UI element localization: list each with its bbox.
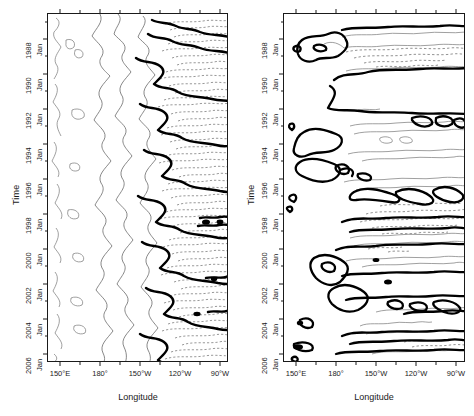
figure-container: Time <box>0 0 474 416</box>
left-panel-y-axis-label: Time <box>11 185 21 205</box>
left-y-tick-month-1998: Jan <box>35 219 44 231</box>
left-y-tick-month-1994: Jan <box>35 149 44 161</box>
right-y-tick-year-1998: 1998 <box>260 217 269 234</box>
right-y-tick-month-2004: Jan <box>271 324 280 336</box>
left-x-tick-150e: 150°E <box>38 369 82 378</box>
right-y-tick-month-1992: Jan <box>271 114 280 126</box>
left-y-tick-month-1990: Jan <box>35 79 44 91</box>
left-y-tick-year-2004: 2004 <box>24 322 33 339</box>
left-y-tick-year-1996: 1996 <box>24 182 33 199</box>
left-x-tick-90w: 90°W <box>198 369 242 378</box>
left-panel-x-axis-label: Longitude <box>88 392 188 402</box>
left-y-tick-month-2004: Jan <box>35 324 44 336</box>
right-y-tick-month-2002: Jan <box>271 289 280 301</box>
right-y-tick-month-1994: Jan <box>271 149 280 161</box>
right-x-tick-90w: 90°W <box>434 369 474 378</box>
left-x-tick-120w: 120°W <box>158 369 202 378</box>
left-y-tick-month-1988: Jan <box>35 44 44 56</box>
right-panel: Time <box>237 0 474 416</box>
left-panel-contour-plot <box>48 14 228 362</box>
left-y-tick-year-1998: 1998 <box>24 217 33 234</box>
right-y-tick-month-2000: Jan <box>271 254 280 266</box>
right-y-tick-year-1996: 1996 <box>260 182 269 199</box>
left-y-tick-month-1992: Jan <box>35 114 44 126</box>
right-x-tick-120w: 120°W <box>394 369 438 378</box>
left-y-tick-year-2000: 2000 <box>24 252 33 269</box>
right-y-tick-month-1988: Jan <box>271 44 280 56</box>
left-y-tick-year-1990: 1990 <box>24 77 33 94</box>
left-panel: Time <box>0 0 237 416</box>
right-y-tick-year-1988: 1988 <box>260 42 269 59</box>
left-y-tick-month-2000: Jan <box>35 254 44 266</box>
left-panel-plot-area <box>47 13 228 362</box>
right-y-tick-year-2004: 2004 <box>260 322 269 339</box>
right-y-tick-year-2006: 2006 <box>260 357 269 374</box>
left-y-tick-month-1996: Jan <box>35 184 44 196</box>
right-panel-contour-plot <box>284 14 465 362</box>
left-y-tick-year-1992: 1992 <box>24 112 33 129</box>
left-x-tick-150w: 150°W <box>118 369 162 378</box>
right-y-tick-month-1996: Jan <box>271 184 280 196</box>
left-y-tick-year-2002: 2002 <box>24 287 33 304</box>
right-x-tick-150w: 150°W <box>354 369 398 378</box>
right-y-tick-month-1990: Jan <box>271 79 280 91</box>
right-y-tick-year-1992: 1992 <box>260 112 269 129</box>
right-y-tick-year-1994: 1994 <box>260 147 269 164</box>
right-panel-y-axis-label: Time <box>246 185 256 205</box>
right-x-tick-180: 180° <box>314 369 358 378</box>
left-y-tick-year-2006: 2006 <box>24 357 33 374</box>
left-y-tick-month-2002: Jan <box>35 289 44 301</box>
right-y-tick-year-2000: 2000 <box>260 252 269 269</box>
right-panel-x-axis-label: Longitude <box>324 392 424 402</box>
right-y-tick-year-2002: 2002 <box>260 287 269 304</box>
left-y-tick-year-1988: 1988 <box>24 42 33 59</box>
left-y-tick-year-1994: 1994 <box>24 147 33 164</box>
right-panel-plot-area <box>283 13 465 362</box>
right-y-tick-month-1998: Jan <box>271 219 280 231</box>
left-x-tick-180: 180° <box>78 369 122 378</box>
right-y-tick-year-1990: 1990 <box>260 77 269 94</box>
right-x-tick-150e: 150°E <box>274 369 318 378</box>
